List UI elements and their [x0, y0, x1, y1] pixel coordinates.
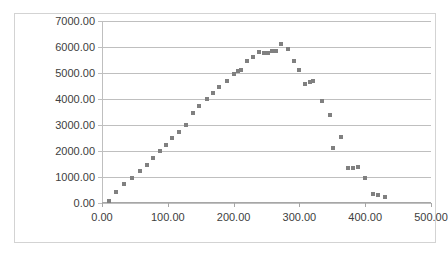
data-point: [184, 123, 188, 127]
data-point: [122, 182, 126, 186]
x-axis-tick: [102, 203, 103, 207]
y-axis-tick-label: 0.00: [74, 197, 95, 209]
gridline-y: [102, 203, 431, 204]
y-axis-tick-label: 5000.00: [55, 67, 95, 79]
data-point: [376, 193, 380, 197]
data-point: [114, 190, 118, 194]
data-point: [251, 55, 255, 59]
data-point: [286, 47, 290, 51]
data-point: [245, 59, 249, 63]
data-point: [320, 99, 324, 103]
data-point: [257, 50, 261, 54]
x-axis-tick-label: 100.00: [151, 211, 185, 223]
data-point: [351, 166, 355, 170]
x-axis-tick-label: 200.00: [217, 211, 251, 223]
data-point: [371, 192, 375, 196]
data-point: [191, 111, 195, 115]
data-point: [303, 82, 307, 86]
x-axis-tick-label: 0.00: [91, 211, 112, 223]
data-point: [138, 169, 142, 173]
data-point: [217, 85, 221, 89]
data-point: [158, 149, 162, 153]
x-axis-tick: [431, 203, 432, 207]
x-axis-tick-label: 300.00: [283, 211, 317, 223]
data-point: [239, 68, 243, 72]
data-point: [383, 195, 387, 199]
data-point: [346, 166, 350, 170]
data-point: [107, 199, 111, 203]
data-point: [292, 59, 296, 63]
data-point: [205, 97, 209, 101]
scatter-series: [102, 21, 431, 203]
x-axis-tick: [299, 203, 300, 207]
data-point: [356, 165, 360, 169]
chart-frame: 0.001000.002000.003000.004000.005000.006…: [14, 13, 436, 243]
plot-area: 0.001000.002000.003000.004000.005000.006…: [102, 21, 431, 203]
data-point: [363, 176, 367, 180]
data-point: [164, 143, 168, 147]
x-axis-tick: [168, 203, 169, 207]
data-point: [177, 130, 181, 134]
data-point: [225, 79, 229, 83]
data-point: [311, 79, 315, 83]
x-axis-tick: [365, 203, 366, 207]
y-axis-tick-label: 7000.00: [55, 15, 95, 27]
data-point: [145, 163, 149, 167]
x-axis-tick-label: 500.00: [414, 211, 448, 223]
data-point: [274, 49, 278, 53]
y-axis-tick-label: 2000.00: [55, 145, 95, 157]
data-point: [130, 176, 134, 180]
y-axis-tick-label: 3000.00: [55, 119, 95, 131]
data-point: [339, 135, 343, 139]
y-axis-tick-label: 4000.00: [55, 93, 95, 105]
x-axis-tick: [234, 203, 235, 207]
data-point: [328, 113, 332, 117]
data-point: [211, 91, 215, 95]
data-point: [279, 42, 283, 46]
x-axis-tick-label: 400.00: [348, 211, 382, 223]
data-point: [331, 146, 335, 150]
y-axis-tick-label: 6000.00: [55, 41, 95, 53]
data-point: [297, 68, 301, 72]
data-point: [170, 136, 174, 140]
data-point: [197, 104, 201, 108]
y-axis-tick-label: 1000.00: [55, 171, 95, 183]
data-point: [151, 156, 155, 160]
